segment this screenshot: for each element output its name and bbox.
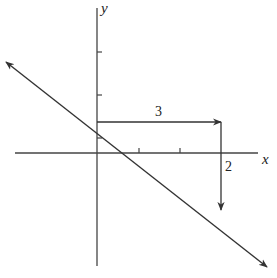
run-label: 3 — [155, 105, 162, 119]
y-axis-ticks — [97, 52, 102, 138]
diagram-canvas — [0, 0, 277, 278]
y-axis-label: y — [101, 1, 108, 16]
rise-label: 2 — [225, 160, 232, 174]
x-axis-label: x — [262, 152, 269, 167]
x-axis-ticks — [139, 148, 180, 153]
slope-diagram: y x 3 2 — [0, 0, 277, 278]
